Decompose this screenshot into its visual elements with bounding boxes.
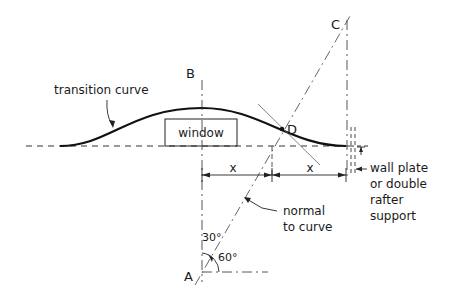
angle-arc-60 (202, 253, 219, 272)
angle-30-label: 30° (202, 231, 222, 244)
wall-leader-arrow (356, 167, 362, 172)
normal-line-a-c (195, 16, 350, 285)
normal-leader-arrow (244, 197, 251, 203)
diagram-canvas: window B C D x x wall plate or double ra… (0, 0, 455, 301)
point-c-label: C (331, 17, 340, 32)
normal-label-2: to curve (283, 220, 332, 234)
dim-arrow-mid-l (264, 173, 272, 178)
point-a-label: A (184, 269, 193, 284)
dim-x-right: x (306, 161, 313, 175)
dim-arrow-left (202, 173, 210, 178)
wall-thickness-arrow (359, 147, 363, 152)
transition-curve-leader-arrow (109, 120, 115, 128)
angle-60-label: 60° (218, 251, 238, 264)
wall-plate-text-1: wall plate (370, 161, 428, 175)
wall-plate-text-4: support (370, 209, 416, 223)
dim-x-left: x (229, 161, 236, 175)
point-d-label: D (287, 122, 297, 137)
dim-arrow-mid-r (272, 173, 280, 178)
wall-plate-text-2: or double (370, 177, 427, 191)
wall-plate-text-3: rafter (370, 193, 403, 207)
point-b-label: B (186, 66, 195, 81)
dim-arrow-right (338, 173, 346, 178)
window-label: window (178, 126, 224, 140)
normal-label-1: normal (283, 204, 325, 218)
point-d-marker (280, 127, 284, 131)
transition-curve-label: transition curve (54, 83, 149, 97)
